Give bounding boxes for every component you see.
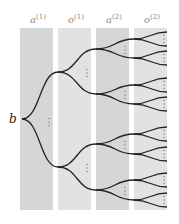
ellipsis-dot <box>48 121 49 122</box>
root-label: b <box>9 112 17 126</box>
column-label-4: o(2) <box>144 13 160 25</box>
ellipsis-dot <box>163 35 164 36</box>
ellipsis-dot <box>48 118 49 119</box>
column-3 <box>96 28 129 210</box>
ellipsis-dot <box>163 107 164 108</box>
ellipsis-dot <box>163 61 164 62</box>
ellipsis-dot <box>163 84 164 85</box>
ellipsis-dot <box>124 94 125 95</box>
column-4 <box>134 28 167 210</box>
ellipsis-dot <box>124 148 125 149</box>
ellipsis-dot <box>163 183 164 184</box>
ellipsis-dot <box>124 141 125 142</box>
ellipsis-dot <box>163 103 164 104</box>
ellipsis-dot <box>86 164 87 165</box>
ellipsis-dot <box>124 46 125 47</box>
ellipsis-dot <box>163 81 164 82</box>
ellipsis-dot <box>163 203 164 204</box>
ellipsis-dot <box>163 54 164 55</box>
column-label-2: o(1) <box>68 13 84 25</box>
ellipsis-dot <box>163 157 164 158</box>
ellipsis-dot <box>124 98 125 99</box>
ellipsis-dot <box>163 57 164 58</box>
ellipsis-dot <box>86 171 87 172</box>
column-label-1: a(1) <box>30 13 46 25</box>
ellipsis-dot <box>86 167 87 168</box>
ellipsis-dot <box>86 76 87 77</box>
column-backgrounds <box>20 28 167 210</box>
ellipsis-dot <box>124 49 125 50</box>
ellipsis-dot <box>163 153 164 154</box>
column-label-3: a(2) <box>106 13 122 25</box>
ellipsis-dot <box>124 190 125 191</box>
ellipsis-dot <box>163 196 164 197</box>
tree-diagram: a(1)o(1)a(2)o(2) b <box>0 0 179 224</box>
ellipsis-dot <box>86 72 87 73</box>
ellipsis-dot <box>163 38 164 39</box>
ellipsis-dot <box>163 179 164 180</box>
ellipsis-dot <box>163 137 164 138</box>
ellipsis-dot <box>163 199 164 200</box>
ellipsis-dot <box>163 176 164 177</box>
ellipsis-dot <box>124 144 125 145</box>
column-2 <box>58 28 91 210</box>
ellipsis-dot <box>163 88 164 89</box>
ellipsis-dot <box>48 125 49 126</box>
ellipsis-dot <box>124 194 125 195</box>
ellipsis-dot <box>163 130 164 131</box>
column-labels: a(1)o(1)a(2)o(2) <box>30 13 160 25</box>
ellipsis-dot <box>163 100 164 101</box>
ellipsis-dot <box>86 69 87 70</box>
ellipsis-dot <box>163 150 164 151</box>
ellipsis-dot <box>163 42 164 43</box>
ellipsis-dot <box>124 53 125 54</box>
ellipsis-dot <box>124 91 125 92</box>
ellipsis-dot <box>124 187 125 188</box>
ellipsis-dot <box>163 133 164 134</box>
